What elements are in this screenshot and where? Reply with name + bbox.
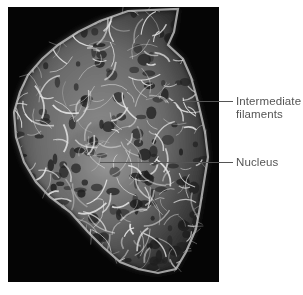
mesh-hole	[193, 141, 198, 147]
mesh-hole	[15, 51, 27, 62]
filament-strand	[46, 29, 56, 31]
filament-strand	[60, 269, 76, 274]
filament-strand	[15, 239, 23, 264]
mesh-hole	[20, 186, 28, 197]
mesh-hole	[68, 264, 82, 274]
filament-strand	[191, 58, 207, 61]
mesh-hole	[162, 258, 167, 264]
filament-strand	[204, 13, 213, 18]
edge-fiber	[91, 235, 92, 244]
filament-strand	[19, 213, 30, 245]
mesh-hole	[40, 118, 51, 125]
filament-strand	[41, 233, 64, 252]
mesh-hole	[95, 59, 105, 68]
mesh-hole	[82, 179, 88, 185]
filament-strand	[68, 263, 79, 265]
mesh-hole	[161, 80, 165, 86]
mesh-hole	[36, 48, 41, 56]
filament-strand	[34, 7, 39, 17]
filament-strand	[201, 244, 218, 247]
filament-strand	[24, 220, 34, 229]
mesh-hole	[18, 7, 30, 17]
mesh-hole	[102, 121, 114, 132]
filament-strand	[8, 49, 23, 60]
filament-strand	[61, 10, 84, 24]
filament-strand	[71, 7, 77, 12]
mesh-hole	[186, 253, 195, 264]
mesh-hole	[86, 10, 94, 18]
mesh-hole	[13, 266, 19, 276]
filament-strand	[19, 197, 23, 217]
filament-strand	[55, 248, 63, 259]
filament-strand	[8, 81, 18, 97]
mesh-hole	[185, 40, 194, 44]
filament-strand	[49, 208, 51, 220]
filament-strand	[8, 65, 22, 75]
micrograph-image	[8, 7, 219, 282]
mesh-hole	[150, 239, 161, 249]
filament-strand	[39, 28, 65, 34]
filament-strand	[27, 214, 46, 227]
cell-micrograph	[8, 7, 219, 282]
filament-strand	[94, 258, 109, 281]
filament-strand	[99, 12, 104, 20]
mesh-hole	[21, 204, 29, 214]
edge-fiber	[86, 224, 87, 230]
mesh-hole	[76, 61, 80, 66]
mesh-hole	[125, 258, 132, 262]
filament-strand	[206, 209, 219, 232]
mesh-hole	[179, 148, 183, 155]
mesh-hole	[57, 237, 70, 247]
mesh-hole	[17, 228, 22, 234]
mesh-hole	[9, 167, 22, 173]
filament-strand	[8, 162, 18, 166]
mesh-hole	[106, 268, 111, 276]
filament-strand	[189, 40, 194, 69]
edge-fiber	[177, 267, 181, 272]
filament-strand	[16, 30, 31, 46]
mesh-hole	[155, 187, 168, 193]
mesh-hole	[71, 163, 81, 173]
leader-line-intermediate-filaments	[172, 101, 233, 102]
mesh-hole	[151, 216, 155, 221]
mesh-hole	[46, 224, 53, 237]
label-line-1: Intermediate	[236, 95, 301, 108]
filament-strand	[25, 222, 45, 236]
filament-strand	[196, 9, 208, 17]
filament-strand	[10, 152, 20, 159]
filament-strand	[22, 184, 35, 187]
edge-fiber	[43, 192, 46, 199]
mesh-hole	[168, 225, 172, 231]
mesh-hole	[182, 231, 190, 238]
filament-strand	[43, 47, 45, 56]
mesh-hole	[146, 106, 156, 119]
mesh-hole	[43, 62, 48, 69]
filament-strand	[202, 241, 216, 263]
mesh-hole	[192, 8, 197, 16]
filament-strand	[66, 267, 68, 275]
label-line-1: Nucleus	[236, 156, 278, 169]
mesh-hole	[156, 250, 162, 263]
filament-strand	[46, 18, 67, 23]
filament-strand	[189, 265, 196, 272]
filament-strand	[19, 209, 23, 219]
mesh-hole	[69, 269, 73, 274]
filament-strand	[22, 30, 44, 49]
mesh-hole	[175, 29, 182, 39]
mesh-hole	[129, 67, 139, 73]
figure: Intermediate filaments Nucleus	[0, 0, 303, 295]
edge-fiber	[49, 42, 58, 46]
mesh-hole	[198, 259, 203, 264]
mesh-hole	[70, 148, 76, 159]
filament-strand	[16, 216, 30, 227]
mesh-hole	[167, 163, 179, 168]
filament-strand	[208, 67, 215, 76]
mesh-hole	[11, 167, 17, 178]
edge-fiber	[191, 241, 197, 244]
filament-strand	[31, 230, 60, 248]
filament-strand	[8, 170, 20, 181]
label-intermediate-filaments: Intermediate filaments	[236, 95, 301, 121]
mesh-hole	[22, 198, 32, 206]
filament-strand	[202, 227, 207, 248]
filament-strand	[41, 234, 46, 251]
